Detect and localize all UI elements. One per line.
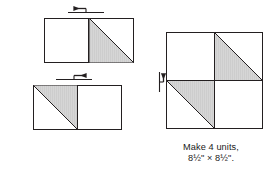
top-seam-arrow: [68, 9, 104, 13]
top-left-square: [45, 19, 89, 63]
block-seam-arrow: [160, 72, 164, 92]
diagram-root: Make 4 units, 8½" × 8½".: [0, 0, 278, 178]
bottom-right-square: [78, 86, 122, 130]
block-quadrant-top-left-outline: [167, 33, 215, 81]
bottom-left-square: [34, 86, 78, 130]
block-caption: Make 4 units, 8½" × 8½".: [150, 142, 272, 165]
bottom-pair: [34, 76, 122, 130]
block-quadrant-bottom-right-outline: [215, 81, 263, 129]
block-quadrant-bottom-left: [167, 81, 215, 129]
caption-line-dimensions: 8½" × 8½".: [150, 153, 272, 164]
caption-line-make-units: Make 4 units,: [150, 142, 272, 153]
top-right-square: [90, 19, 134, 63]
block-quadrant-bottom-right: [215, 81, 263, 129]
block-quadrant-top-left: [167, 33, 215, 81]
pinwheel-block: [160, 33, 263, 129]
top-pair: [45, 9, 134, 63]
top-left-square-outline: [45, 19, 89, 63]
bottom-seam-arrow: [56, 76, 92, 80]
bottom-right-square-outline: [78, 86, 122, 130]
block-quadrant-top-right: [215, 33, 263, 81]
